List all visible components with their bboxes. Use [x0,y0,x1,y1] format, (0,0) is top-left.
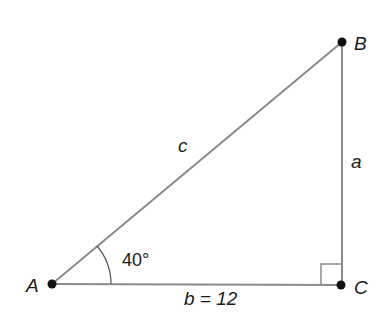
side-c [52,42,342,284]
angle-arc-A [97,246,111,284]
point-C [337,281,346,290]
vertex-label-A: A [25,275,39,296]
side-label-a: a [351,151,362,172]
triangle-diagram: A B C c a b = 12 40° [0,0,392,327]
angle-label-A: 40° [122,250,149,270]
side-label-b: b = 12 [184,288,238,309]
side-label-c: c [178,135,188,156]
side-b [52,284,342,285]
point-B [338,38,347,47]
side-label-b-text: b = 12 [184,288,238,309]
vertex-label-C: C [354,277,368,298]
vertex-label-B: B [354,33,367,54]
point-A [48,280,57,289]
